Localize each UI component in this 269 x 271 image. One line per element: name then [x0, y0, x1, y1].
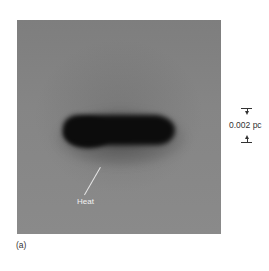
scale-bar-label: 0.002 pc: [229, 120, 262, 130]
dark-elongated-object: [63, 115, 175, 145]
arrow-down-icon: [245, 111, 249, 115]
astronomical-photo: Heat: [17, 20, 221, 234]
panel-label: (a): [16, 240, 26, 250]
heat-pointer-line: [84, 167, 101, 195]
heat-label: Heat: [77, 197, 94, 206]
scale-tick-bottom: [241, 142, 252, 143]
